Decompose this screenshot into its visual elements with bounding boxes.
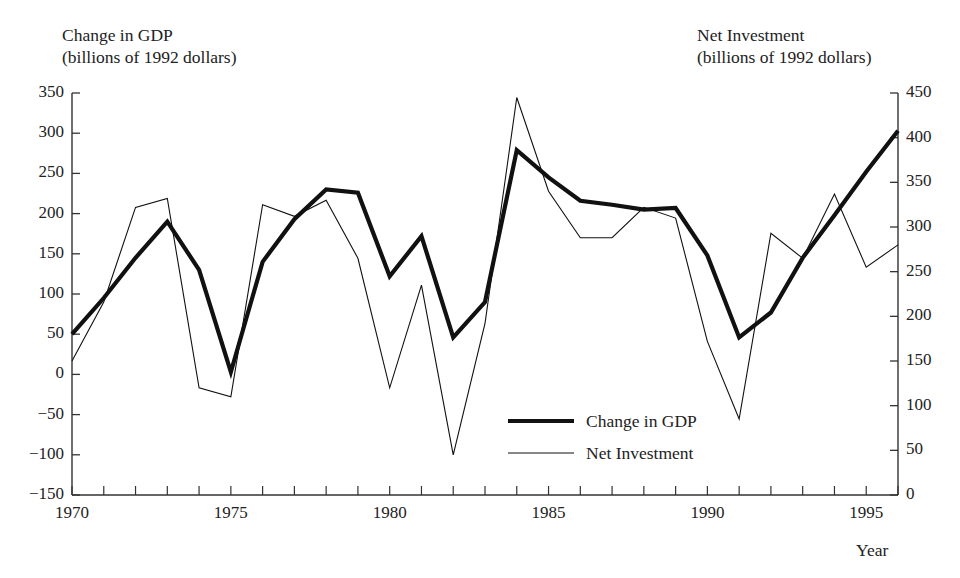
right-tick-label-150: 150	[906, 350, 960, 370]
left-tick-label-250: 250	[4, 162, 64, 182]
left-tick-label-0: 0	[4, 363, 64, 383]
right-tick-label-300: 300	[906, 216, 960, 236]
left-tick-label-minus100: −100	[4, 444, 64, 464]
x-tick-label-1995: 1995	[836, 503, 896, 523]
left-tick-label-100: 100	[4, 283, 64, 303]
right-tick-label-200: 200	[906, 305, 960, 325]
x-tick-label-1970: 1970	[42, 503, 102, 523]
right-tick-label-400: 400	[906, 127, 960, 147]
right-tick-label-250: 250	[906, 261, 960, 281]
legend-sample-lines	[508, 421, 574, 453]
left-tick-label-300: 300	[4, 122, 64, 142]
right-tick-label-100: 100	[906, 395, 960, 415]
legend-label-change-in-gdp: Change in GDP	[586, 411, 697, 432]
x-tick-label-1980: 1980	[360, 503, 420, 523]
series-line-net-investment	[72, 97, 898, 454]
left-tick-label-50: 50	[4, 323, 64, 343]
right-axis-ticks	[890, 93, 898, 495]
right-tick-label-0: 0	[906, 484, 960, 504]
chart-figure: Change in GDP(billions of 1992 dollars) …	[0, 0, 960, 578]
x-axis-ticks	[72, 486, 898, 495]
left-axis-ticks	[72, 93, 80, 495]
right-tick-label-350: 350	[906, 171, 960, 191]
x-tick-label-1975: 1975	[201, 503, 261, 523]
right-tick-label-50: 50	[906, 439, 960, 459]
left-tick-label-350: 350	[4, 82, 64, 102]
plot-area	[0, 0, 960, 578]
data-series-layer	[72, 97, 898, 454]
left-tick-label-minus150: −150	[4, 484, 64, 504]
right-tick-label-450: 450	[906, 82, 960, 102]
left-tick-label-200: 200	[4, 203, 64, 223]
x-tick-label-1985: 1985	[519, 503, 579, 523]
left-tick-label-minus50: −50	[4, 404, 64, 424]
x-tick-label-1990: 1990	[677, 503, 737, 523]
left-tick-label-150: 150	[4, 243, 64, 263]
legend-label-net-investment: Net Investment	[586, 443, 693, 464]
series-line-change-in-gdp	[72, 131, 898, 372]
